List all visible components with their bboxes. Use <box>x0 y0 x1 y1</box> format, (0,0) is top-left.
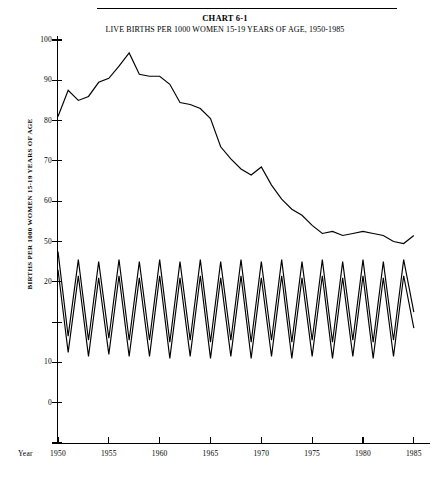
y-axis-tick-label: 0 <box>28 398 52 407</box>
series-line-main <box>58 53 414 244</box>
y-axis-tick <box>52 322 62 323</box>
x-axis-tick-label: 1980 <box>348 449 378 458</box>
x-axis-tick-label: 1985 <box>399 449 429 458</box>
y-axis-tick <box>52 160 62 161</box>
plot-area <box>0 0 437 483</box>
x-axis-tick-label: 1970 <box>246 449 276 458</box>
x-axis-tick <box>57 437 58 444</box>
y-axis-tick <box>52 281 62 282</box>
x-axis-tick-label: 1950 <box>43 449 73 458</box>
y-axis-tick-label: 50 <box>28 237 52 246</box>
x-axis-tick-label: 1960 <box>145 449 175 458</box>
x-axis-tick <box>312 437 313 444</box>
x-axis-tick <box>261 437 262 444</box>
y-axis-tick-label: 10 <box>28 357 52 366</box>
y-axis-tick-label: 100 <box>28 35 52 44</box>
y-axis-tick <box>52 402 62 403</box>
x-axis-tick <box>108 437 109 444</box>
x-axis-tick <box>413 437 414 444</box>
y-axis-tick-label: 90 <box>28 75 52 84</box>
x-axis-tick-label: 1975 <box>297 449 327 458</box>
y-axis-tick <box>52 201 62 202</box>
y-axis-tick-label: 70 <box>28 156 52 165</box>
x-axis-tick <box>362 437 363 444</box>
y-axis-tick <box>52 120 62 121</box>
y-axis-tick-label: 20 <box>28 277 52 286</box>
x-axis-tick-label: 1965 <box>196 449 226 458</box>
x-axis-tick-label: 1955 <box>94 449 124 458</box>
x-axis-tick <box>210 437 211 444</box>
y-axis-tick-label: 60 <box>28 196 52 205</box>
y-axis-tick-label: 80 <box>28 116 52 125</box>
x-axis-tick <box>159 437 160 444</box>
chart-figure: CHART 6-1 LIVE BIRTHS PER 1000 WOMEN 15-… <box>0 0 437 483</box>
y-axis-tick <box>52 241 62 242</box>
y-axis-tick <box>52 80 62 81</box>
y-axis-tick <box>52 39 62 40</box>
y-axis-tick <box>52 362 62 363</box>
